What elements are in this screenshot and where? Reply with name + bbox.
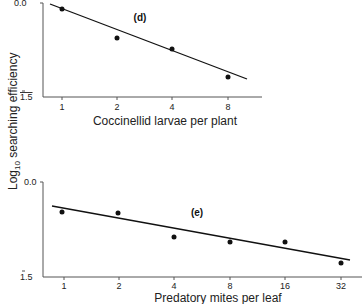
fit-line-d (50, 4, 247, 79)
svg-text:4: 4 (169, 102, 174, 112)
x-axis-label-d: Coccinellid larvae per plant (93, 114, 238, 128)
svg-text:32: 32 (336, 281, 346, 291)
chart-panel-e: 0.0 1.5 1 2 4 8 16 32 Predatory mites pe… (20, 177, 362, 304)
y-tick-top-d: 0.0 (14, 0, 27, 8)
svg-text:1: 1 (59, 102, 64, 112)
y-tick-bottom-d: 1.5 (20, 92, 33, 102)
y-tick-bottom-e: 1.5 (20, 272, 33, 282)
svg-text:2: 2 (116, 281, 121, 291)
panel-label-d: (d) (134, 12, 147, 23)
y-axis-label: Log10 searching efficiency (6, 53, 22, 190)
svg-text:4: 4 (171, 281, 176, 291)
x-ticks-d: 1 2 4 8 (59, 97, 230, 112)
x-ticks-e: 1 2 4 8 16 32 (61, 277, 346, 291)
x-axis-label-e: Predatory mites per leaf (154, 291, 282, 304)
figure: Log10 searching efficiency 0.0 1.5 1 2 4… (0, 0, 364, 304)
panel-label-e: (e) (191, 207, 203, 218)
svg-text:8: 8 (227, 281, 232, 291)
chart-panel-d: 0.0 1.5 1 2 4 8 Coccinellid larvae per p… (14, 0, 262, 128)
svg-text:2: 2 (114, 102, 119, 112)
svg-text:16: 16 (280, 281, 290, 291)
svg-text:1: 1 (61, 281, 66, 291)
y-tick-top-e: 0.0 (24, 177, 37, 187)
svg-text:8: 8 (225, 102, 230, 112)
